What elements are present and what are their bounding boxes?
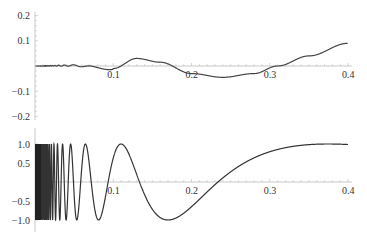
x-tick-label: 0.1	[107, 185, 120, 196]
y-tick-label: −1.0	[12, 215, 30, 226]
x-tick-label: 0.4	[342, 69, 355, 80]
dense-oscillation	[35, 144, 41, 220]
chart-area: 0.10.20.30.40.20.1−0.1−0.20.10.20.30.41.…	[0, 0, 367, 245]
x-tick-label: 0.2	[186, 185, 199, 196]
y-tick-label: −0.2	[12, 111, 30, 122]
x-tick-label: 0.3	[264, 185, 277, 196]
x-tick-label: 0.2	[186, 69, 199, 80]
y-tick-label: −0.1	[12, 86, 30, 97]
x-tick-label: 0.1	[107, 69, 120, 80]
x-tick-label: 0.3	[264, 69, 277, 80]
y-tick-label: −0.5	[12, 196, 30, 207]
y-tick-label: 0.5	[18, 158, 31, 169]
x-tick-label: 0.4	[342, 185, 355, 196]
y-tick-label: 0.2	[18, 10, 31, 21]
y-tick-label: 0.1	[18, 35, 31, 46]
y-tick-label: 1.0	[18, 139, 31, 150]
